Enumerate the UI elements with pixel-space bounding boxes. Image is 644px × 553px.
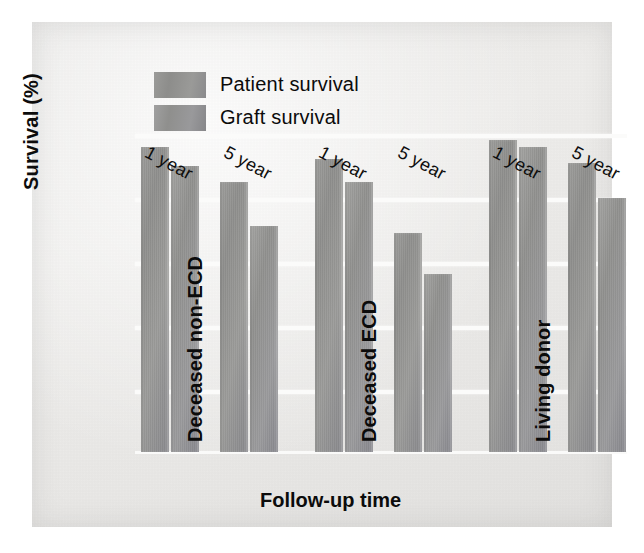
legend-label-graft-survival: Graft survival <box>220 106 341 129</box>
legend-swatch-patient-survival <box>154 72 206 98</box>
legend-label-patient-survival: Patient survival <box>220 73 359 96</box>
x-axis-title: Follow-up time <box>260 489 401 512</box>
bar-deceased-ecd-1year-patient <box>315 159 343 452</box>
bar-living-donor-5year-graft <box>598 198 626 452</box>
chart-legend: Patient survival Graft survival <box>154 68 359 134</box>
bar-deceased-ecd-5year-graft <box>424 274 452 452</box>
bar-deceased-non-ecd-5year-graft <box>250 226 278 452</box>
group-label-deceased-non-ecd: Deceased non-ECD <box>184 256 207 442</box>
x-tick-label-g2-5year: 5 year <box>394 142 449 185</box>
gridline-80 <box>135 198 627 202</box>
figure-bar-chart-survival: Patient survival Graft survival Survival… <box>0 0 644 553</box>
legend-item-patient-survival: Patient survival <box>154 68 359 101</box>
group-label-living-donor: Living donor <box>532 320 555 442</box>
group-label-deceased-ecd: Deceased ECD <box>358 300 381 442</box>
gridline-60 <box>135 262 627 266</box>
bar-living-donor-1year-patient <box>489 140 517 452</box>
chart-panel: Patient survival Graft survival Survival… <box>32 22 612 527</box>
x-axis-baseline <box>135 451 627 454</box>
legend-swatch-graft-survival <box>154 105 206 131</box>
bar-deceased-non-ecd-5year-patient <box>220 182 248 452</box>
x-tick-label-g1-5year: 5 year <box>220 142 275 185</box>
bar-deceased-ecd-5year-patient <box>394 233 422 452</box>
plot-area: Deceased non-ECD Deceased ECD Living don… <box>135 134 627 452</box>
bar-deceased-non-ecd-1year-patient <box>141 147 169 452</box>
bar-living-donor-5year-patient <box>568 163 596 452</box>
legend-item-graft-survival: Graft survival <box>154 101 359 134</box>
y-axis-title: Survival (%) <box>20 73 43 190</box>
gridline-100 <box>135 134 627 138</box>
